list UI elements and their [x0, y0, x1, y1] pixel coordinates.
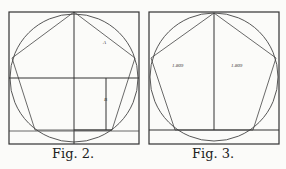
label-right-ratio: 1.809	[231, 63, 243, 68]
label-a: A	[102, 40, 107, 45]
label-left-ratio: 1.809	[172, 63, 184, 68]
figure-2-diagram: A B	[0, 0, 143, 150]
label-b: B	[104, 97, 107, 102]
figure-3-diagram: 1.809 1.809	[143, 0, 286, 150]
figure-2-caption: Fig. 2.	[52, 146, 94, 161]
figure-3-caption: Fig. 3.	[192, 146, 234, 161]
figure-3: 1.809 1.809 Fig. 3.	[143, 0, 286, 150]
figure-2: A B Fig. 2.	[0, 0, 143, 150]
